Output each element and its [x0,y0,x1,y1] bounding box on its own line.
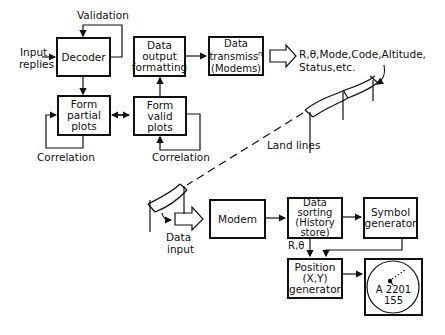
output-data-label-2: Status,etc. [299,62,355,73]
validation-label: Validation [77,10,129,21]
modem-label: Modem [218,214,257,225]
position-line3: generator [289,284,341,295]
form-valid-line1: Form [147,100,173,111]
display-label-line2: 155 [384,295,403,306]
transmission-line1: Data [224,38,248,49]
transmission-line3: (Modems) [211,63,261,74]
transmission-superscript: n [258,50,262,58]
sorting-line4: store) [300,228,329,238]
correlation-left-label: Correlation [37,152,95,163]
symbol-line2: generator [365,218,417,229]
form-partial-line3: plots [71,121,97,132]
output-data-label-1: R,θ,Mode,Code,Altitude, [299,49,426,60]
transmission-line2: transmissn [209,49,262,62]
form-valid-plots-block: Form valid plots [133,96,187,136]
symbol-generator-block: Symbol generator [363,197,418,239]
decoder-block: Decoder [56,37,111,77]
radar-data-processing-diagram: Decoder Form partial plots Data output f… [0,0,445,335]
land-lines-label: Land lines [267,140,320,151]
display-screen-block: A 2201 155 [364,258,423,316]
modem-block: Modem [209,199,266,239]
input-replies-label-2: replies [19,59,54,70]
correlation-right-label: Correlation [152,152,210,163]
decoder-label: Decoder [61,52,105,63]
form-valid-line3: plots [147,122,173,133]
data-output-formatting-block: Data output formatting [133,36,186,77]
data-input-label-1: Data [166,232,191,243]
form-valid-line2: valid [147,111,172,122]
data-sorting-block: Data sorting (History store) [287,197,343,239]
input-replies-label-1: Input [20,47,47,58]
data-input-label-2: input [167,244,194,255]
display-label-line1: A 2201 [376,285,411,295]
output-formatting-line3: formatting [132,62,187,73]
form-partial-plots-block: Form partial plots [57,95,111,136]
position-generator-block: Position (X,Y) generator [287,258,343,299]
transmission-word: transmiss [209,52,258,63]
data-transmission-block: Data transmissn (Modems) [208,36,264,76]
r-theta-label: R,θ [288,240,304,251]
